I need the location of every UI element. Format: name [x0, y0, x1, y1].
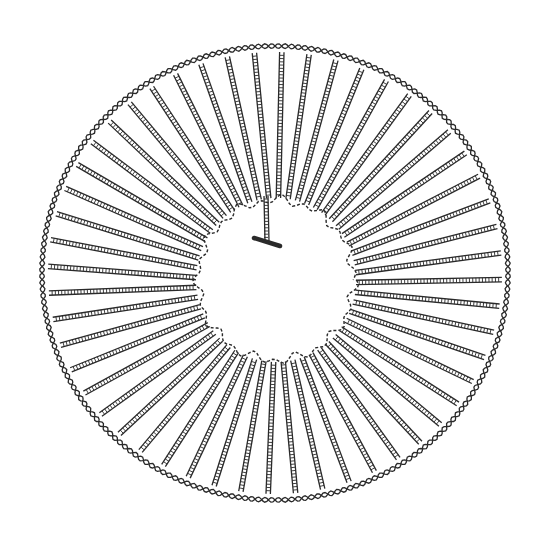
- crochet-ring-drawing: [0, 0, 549, 535]
- short-spoke-with-crossbar: [254, 196, 280, 246]
- radial-spokes: [48, 52, 502, 494]
